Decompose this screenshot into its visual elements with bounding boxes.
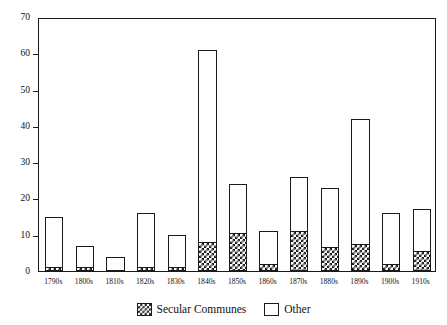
bar-segment-other[interactable] (45, 217, 63, 271)
bar-group[interactable] (198, 17, 216, 271)
bar-group[interactable] (382, 17, 400, 271)
y-axis-tick-label: 50 (21, 84, 31, 96)
bar-segment-secular-communes[interactable] (413, 251, 431, 271)
bar-group[interactable] (137, 17, 155, 271)
bar-group[interactable] (229, 17, 247, 271)
bar-segment-other[interactable] (168, 235, 186, 271)
stacked-bar-chart: 010203040506070 1790s1800s1810s1820s1830… (0, 0, 447, 325)
x-axis-tick-label: 1840s (191, 276, 222, 287)
x-axis-tick-label: 1910s (405, 276, 436, 287)
bar-segment-secular-communes[interactable] (290, 231, 308, 271)
y-axis-tick-label: 30 (21, 156, 31, 168)
bar-group[interactable] (45, 17, 63, 271)
bar-segment-other[interactable] (198, 50, 216, 271)
bar-segment-secular-communes[interactable] (168, 267, 186, 271)
x-axis-tick-label: 1860s (252, 276, 283, 287)
x-axis-tick-label: 1800s (69, 276, 100, 287)
legend-item-label: Secular Communes (157, 302, 247, 316)
x-axis-tick-label: 1830s (160, 276, 191, 287)
y-axis-tick-label: 20 (21, 192, 31, 204)
bar-group[interactable] (290, 17, 308, 271)
legend-swatch-plain-icon (264, 303, 279, 316)
bar-segment-secular-communes[interactable] (259, 264, 277, 271)
x-axis: 1790s1800s1810s1820s1830s1840s1850s1860s… (38, 276, 436, 292)
x-axis-tick-label: 1890s (344, 276, 375, 287)
bar-segment-other[interactable] (382, 213, 400, 271)
legend-item[interactable]: Other (264, 302, 310, 316)
bar-segment-secular-communes[interactable] (382, 264, 400, 271)
bar-group[interactable] (259, 17, 277, 271)
bar-segment-secular-communes[interactable] (229, 233, 247, 271)
bar-segment-secular-communes[interactable] (76, 267, 94, 271)
x-axis-tick-label: 1870s (283, 276, 314, 287)
bar-group[interactable] (413, 17, 431, 271)
bar-segment-other[interactable] (137, 213, 155, 271)
y-axis-tick-label: 0 (25, 265, 30, 277)
bar-group[interactable] (321, 17, 339, 271)
bar-segment-other[interactable] (106, 257, 124, 272)
x-axis-tick-label: 1850s (222, 276, 253, 287)
bar-group[interactable] (76, 17, 94, 271)
y-axis-tick-label: 60 (21, 47, 31, 59)
y-axis-tick-label: 10 (21, 229, 31, 241)
y-axis-tick-label: 70 (21, 11, 31, 23)
bar-segment-secular-communes[interactable] (45, 267, 63, 271)
chart-legend: Secular CommunesOther (0, 298, 447, 320)
bar-segment-secular-communes[interactable] (137, 267, 155, 271)
x-axis-tick-label: 1810s (99, 276, 130, 287)
bar-group[interactable] (106, 17, 124, 271)
bar-group[interactable] (351, 17, 369, 271)
bar-segment-secular-communes[interactable] (321, 247, 339, 271)
plot-area (38, 18, 436, 272)
x-axis-tick-label: 1820s (130, 276, 161, 287)
y-axis: 010203040506070 (0, 18, 38, 272)
bar-segment-secular-communes[interactable] (198, 242, 216, 271)
legend-item[interactable]: Secular Communes (137, 302, 247, 316)
x-axis-tick-label: 1880s (314, 276, 345, 287)
legend-swatch-hatched-icon (137, 303, 152, 316)
y-axis-tick-label: 40 (21, 120, 31, 132)
legend-item-label: Other (284, 302, 310, 316)
x-axis-tick-label: 1900s (375, 276, 406, 287)
bars-layer (39, 19, 435, 271)
bar-segment-secular-communes[interactable] (351, 244, 369, 271)
bar-group[interactable] (168, 17, 186, 271)
x-axis-tick-label: 1790s (38, 276, 69, 287)
